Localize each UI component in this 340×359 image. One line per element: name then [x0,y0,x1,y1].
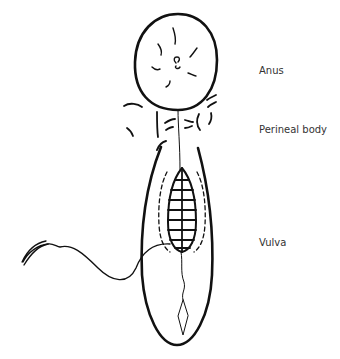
diagram-canvas: Anus Perineal body Vulva [0,0,340,359]
perineal-repair-illustration [0,0,340,359]
label-vulva: Vulva [259,237,286,248]
label-perineal-body: Perineal body [259,124,327,135]
suture-thread [24,244,170,280]
label-anus: Anus [259,65,284,76]
